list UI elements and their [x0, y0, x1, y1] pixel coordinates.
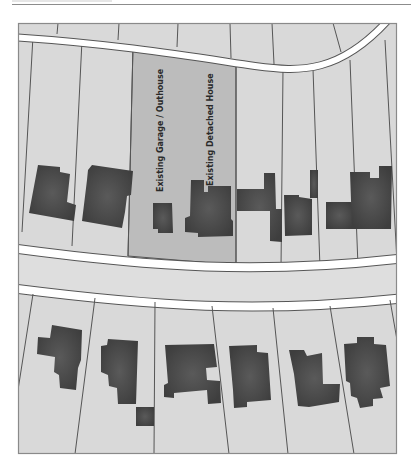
building [326, 202, 353, 229]
house-label: Existing Detached House [206, 73, 215, 186]
garage-label: Existing Garage / Outhouse [156, 68, 165, 192]
building [153, 203, 173, 233]
site-plan-map: Existing Garage / Outhouse Existing Deta… [0, 0, 411, 462]
building [284, 195, 312, 236]
building [310, 170, 318, 198]
building [136, 407, 154, 426]
building [185, 180, 233, 237]
building [229, 345, 271, 408]
